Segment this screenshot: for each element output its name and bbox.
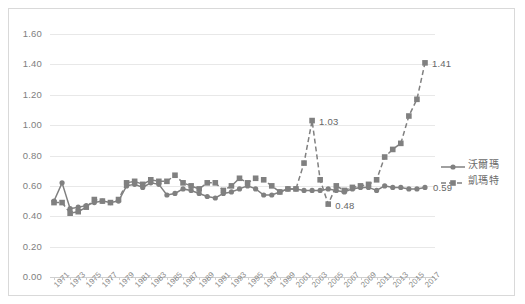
data-point (245, 180, 251, 186)
data-point (398, 185, 403, 190)
y-axis-tick-label: 1.60 (23, 29, 42, 38)
data-point (148, 177, 154, 183)
data-point (253, 186, 258, 191)
data-point (342, 188, 348, 194)
data-point (285, 186, 291, 192)
data-point (92, 197, 98, 203)
data-point (67, 210, 73, 216)
chart-container: 0.000.200.400.600.801.001.201.401.60 197… (0, 0, 525, 304)
data-label: 1.03 (319, 116, 338, 127)
data-point (51, 200, 57, 206)
data-label: 1.41 (432, 58, 451, 69)
data-point (180, 186, 185, 191)
data-point (414, 186, 419, 191)
series-2 (51, 60, 428, 216)
data-point (309, 188, 314, 193)
data-point (229, 183, 235, 189)
legend-label: 沃爾瑪 (468, 156, 499, 171)
y-axis-tick-label: 0.60 (23, 181, 42, 190)
data-point (277, 189, 283, 195)
data-point (325, 201, 331, 207)
data-point (350, 185, 356, 191)
data-label: 0.48 (335, 200, 354, 211)
data-point (301, 188, 306, 193)
data-point (188, 183, 194, 189)
data-point (237, 186, 242, 191)
legend-swatch (441, 174, 465, 184)
data-point (293, 186, 299, 192)
data-point (205, 194, 210, 199)
y-axis-tick-label: 1.40 (23, 59, 42, 68)
data-point (406, 186, 411, 191)
data-point (406, 113, 412, 119)
data-point (59, 180, 64, 185)
chart-frame: 0.000.200.400.600.801.001.201.401.60 197… (8, 8, 515, 296)
data-point (261, 177, 267, 183)
data-point (309, 118, 315, 124)
data-point (213, 195, 218, 200)
y-axis-tick-label: 1.00 (23, 120, 42, 129)
data-point (75, 209, 81, 215)
data-point (301, 160, 307, 166)
y-axis-tick-label: 0.40 (23, 211, 42, 220)
data-point (382, 154, 388, 160)
data-point (100, 198, 106, 204)
data-point (318, 188, 323, 193)
data-point (398, 141, 404, 147)
data-point (374, 177, 380, 183)
data-point (269, 192, 274, 197)
data-point (221, 188, 227, 194)
y-axis-tick-label: 0.80 (23, 151, 42, 160)
legend-item-2[interactable]: 凱瑪特 (441, 171, 517, 187)
data-point (213, 180, 219, 186)
data-point (204, 180, 210, 186)
y-axis-tick-label: 0.00 (23, 272, 42, 281)
data-point (116, 197, 122, 203)
data-point (156, 179, 162, 185)
data-point (326, 186, 331, 191)
data-point (261, 192, 266, 197)
data-point (390, 147, 396, 153)
plot-area: 0.000.200.400.600.801.001.201.401.60 197… (50, 34, 435, 277)
legend-item-1[interactable]: 沃爾瑪 (441, 155, 517, 171)
data-point (366, 182, 372, 188)
data-point (83, 204, 89, 210)
data-point (374, 188, 379, 193)
data-point (164, 179, 170, 185)
data-point (422, 60, 428, 66)
data-point (382, 183, 387, 188)
data-point (164, 192, 169, 197)
data-point (229, 189, 234, 194)
data-point (333, 183, 339, 189)
data-point (132, 179, 138, 185)
data-point (390, 185, 395, 190)
data-point (358, 183, 364, 189)
data-point (317, 177, 323, 183)
data-point (196, 186, 202, 192)
data-point (180, 180, 186, 186)
data-point (140, 182, 146, 188)
legend-label: 凱瑪特 (468, 172, 499, 187)
y-axis-tick-label: 0.20 (23, 242, 42, 251)
data-point (59, 200, 65, 206)
data-point (414, 97, 420, 103)
y-axis-tick-label: 1.20 (23, 90, 42, 99)
data-point (172, 172, 178, 178)
data-point (124, 180, 130, 186)
series-plot (50, 34, 435, 277)
chart-legend: 沃爾瑪凱瑪特 (441, 155, 517, 187)
data-point (237, 175, 243, 181)
data-point (422, 185, 427, 190)
legend-swatch (441, 158, 465, 168)
data-point (108, 200, 114, 206)
data-point (253, 175, 259, 181)
data-point (269, 183, 275, 189)
data-point (172, 191, 177, 196)
